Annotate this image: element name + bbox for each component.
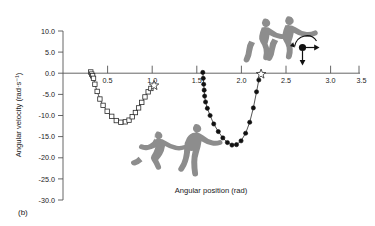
x-tick-label: 1.0 (147, 76, 157, 85)
first-movement-open-squares-marker (143, 95, 147, 99)
x-tick-label: 3.5 (357, 76, 367, 85)
first-movement-open-squares-marker (93, 82, 97, 86)
second-movement-filled-circles-marker (251, 106, 255, 110)
first-movement-open-squares-marker (110, 114, 114, 118)
second-movement-filled-circles-marker (201, 70, 205, 74)
second-movement-filled-circles-marker (225, 140, 229, 144)
x-axis-tick-labels: 0.5 1.0 1.5 2.0 2.5 3.0 3.5 (103, 76, 367, 85)
y-tick-label: 5.0 (45, 48, 55, 57)
second-movement-endpoint-star-marker (256, 69, 266, 78)
first-movement-open-squares-marker (101, 103, 105, 107)
y-tick-label: -20.0 (39, 153, 55, 162)
second-movement-filled-circles-marker (202, 82, 206, 86)
x-axis-ticks (108, 66, 359, 74)
chart-svg: 10.0 5.0 0.0 -5.0 -10.0 -15.0 -20.0 -25.… (0, 0, 375, 226)
second-movement-filled-circles-marker (244, 131, 248, 135)
x-tick-label: 2.0 (236, 76, 246, 85)
x-axis-title: Angular position (rad) (175, 186, 248, 195)
x-tick-label: 2.5 (281, 76, 291, 85)
x-tick-label: 1.5 (192, 76, 202, 85)
second-movement-filled-circles-marker (234, 143, 238, 147)
center-of-mass-rotation-icon (290, 36, 319, 66)
second-movement-filled-circles-marker (202, 88, 206, 92)
figure-jump-upper-right (266, 16, 318, 61)
second-movement-filled-circles-marker (254, 90, 258, 94)
y-axis-tick-labels: 10.0 5.0 0.0 -5.0 -10.0 -15.0 -20.0 -25.… (39, 27, 55, 205)
first-movement-open-squares-marker (91, 76, 95, 80)
first-movement-open-squares-marker (98, 97, 102, 101)
x-tick-label: 0.5 (103, 76, 113, 85)
first-movement-open-squares-marker (114, 118, 118, 122)
y-tick-label: -5.0 (43, 90, 55, 99)
y-tick-label: 0.0 (45, 69, 55, 78)
second-movement-filled-circles-marker (205, 106, 209, 110)
y-tick-label: -10.0 (39, 111, 55, 120)
y-tick-label: 10.0 (41, 27, 55, 36)
chart-panel: 10.0 5.0 0.0 -5.0 -10.0 -15.0 -20.0 -25.… (0, 0, 375, 226)
second-movement-filled-circles-marker (216, 129, 220, 133)
y-tick-label: -15.0 (39, 132, 55, 141)
x-tick-label: 3.0 (326, 76, 336, 85)
y-axis-ticks (58, 31, 63, 200)
first-movement-open-squares-marker (95, 89, 99, 93)
second-movement-filled-circles-marker (257, 78, 261, 82)
second-movement-filled-circles-marker (239, 139, 243, 143)
first-movement-open-squares-marker (140, 100, 144, 104)
figure-bend-lower-right (178, 124, 222, 177)
second-movement-filled-circles-marker (212, 122, 216, 126)
second-movement-filled-circles-marker (221, 136, 225, 140)
figure-crouch-lower-left (131, 131, 187, 169)
second-movement-filled-circles-marker (248, 120, 252, 124)
first-movement-open-squares-marker (119, 120, 123, 124)
y-axis-title: Angular velocity (rad·s⁻¹) (14, 72, 23, 157)
first-movement-open-squares-marker (136, 106, 140, 110)
y-tick-label: -25.0 (39, 175, 55, 184)
first-movement-open-squares-marker (133, 110, 137, 114)
second-movement-filled-circles-marker (203, 100, 207, 104)
second-movement-filled-circles-line (203, 72, 259, 145)
panel-label: (b) (18, 208, 28, 217)
second-movement-filled-circles-marker (201, 76, 205, 80)
first-movement-open-squares-marker (130, 115, 134, 119)
first-movement-open-squares-marker (105, 109, 109, 113)
second-movement-filled-circles-marker (230, 143, 234, 147)
second-movement-filled-circles-marker (208, 113, 212, 117)
second-movement-filled-circles-marker (203, 94, 207, 98)
y-tick-label: -30.0 (39, 196, 55, 205)
